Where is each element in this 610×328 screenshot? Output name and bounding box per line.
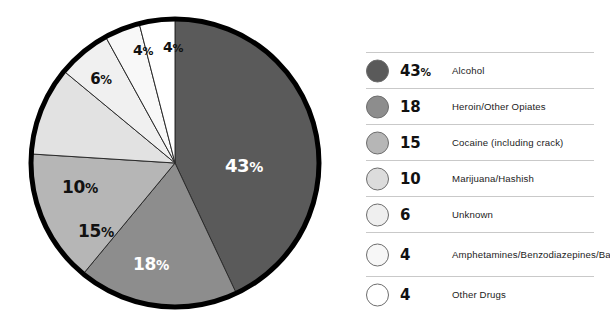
legend-value: 4: [400, 246, 444, 264]
legend-color-swatch-icon: [366, 131, 389, 154]
percent-sign: %: [249, 159, 263, 175]
legend-row[interactable]: 43%Alcohol: [366, 52, 594, 88]
legend-value: 10: [400, 170, 444, 188]
percent-sign: %: [142, 45, 153, 58]
legend-color-swatch-icon: [366, 203, 389, 226]
legend-value: 4: [400, 286, 444, 304]
pie-slice-value: 15: [78, 221, 101, 241]
legend-color-swatch-icon: [366, 95, 389, 118]
percent-sign: %: [420, 66, 430, 78]
legend-value-number: 15: [400, 134, 420, 152]
pie-slice-value: 18: [133, 254, 156, 274]
legend-label: Unknown: [452, 208, 594, 222]
legend-label: Other Drugs: [452, 288, 594, 302]
legend-color-swatch-icon: [366, 59, 389, 82]
legend-label: Cocaine (including crack): [452, 136, 594, 150]
pie-slice-label: 4%: [133, 43, 153, 58]
legend-label: Marijuana/Hashish: [452, 172, 594, 186]
percent-sign: %: [85, 181, 98, 196]
legend-label: Alcohol: [452, 64, 594, 78]
percent-sign: %: [172, 42, 183, 55]
pie-chart-figure: 43%18%15%10%6%4%4% 43%Alcohol18Heroin/Ot…: [0, 0, 610, 328]
legend-label: Heroin/Other Opiates: [452, 100, 594, 114]
legend-color-swatch-icon: [366, 167, 389, 190]
legend-value: 18: [400, 98, 444, 116]
legend-row[interactable]: 4Other Drugs: [366, 276, 594, 312]
legend-row[interactable]: 4Amphetamines/Benzodiazepines/Barbiturat…: [366, 232, 594, 276]
legend-value-number: 43: [400, 62, 420, 80]
legend-label: Amphetamines/Benzodiazepines/Barbiturate…: [452, 248, 594, 262]
legend-value: 15: [400, 134, 444, 152]
legend-row[interactable]: 18Heroin/Other Opiates: [366, 88, 594, 124]
pie-slice-label: 4%: [163, 40, 183, 55]
legend-row[interactable]: 10Marijuana/Hashish: [366, 160, 594, 196]
percent-sign: %: [101, 225, 114, 240]
legend-value-number: 4: [400, 286, 410, 304]
legend-value-number: 10: [400, 170, 420, 188]
legend-row[interactable]: 6Unknown: [366, 196, 594, 232]
pie-slice-value: 10: [62, 177, 85, 197]
legend-value-number: 6: [400, 206, 410, 224]
percent-sign: %: [100, 73, 111, 87]
pie-slice-value: 6: [90, 70, 100, 88]
pie-chart-area: 43%18%15%10%6%4%4%: [0, 0, 350, 328]
legend-value-number: 4: [400, 246, 410, 264]
pie-slice-label: 18%: [133, 256, 169, 273]
percent-sign: %: [156, 258, 169, 273]
legend-color-swatch-icon: [366, 283, 389, 306]
pie-slice-value: 43: [225, 155, 249, 176]
pie-slice-label: 43%: [225, 157, 263, 175]
pie-slice-label: 6%: [90, 72, 112, 87]
legend-value: 43%: [400, 62, 444, 80]
legend-value-number: 18: [400, 98, 420, 116]
legend-color-swatch-icon: [366, 243, 389, 266]
legend-row[interactable]: 15Cocaine (including crack): [366, 124, 594, 160]
pie-slice-label: 15%: [78, 223, 114, 240]
pie-slice-label: 10%: [62, 179, 98, 196]
legend-value: 6: [400, 206, 444, 224]
legend: 43%Alcohol18Heroin/Other Opiates15Cocain…: [366, 52, 594, 312]
